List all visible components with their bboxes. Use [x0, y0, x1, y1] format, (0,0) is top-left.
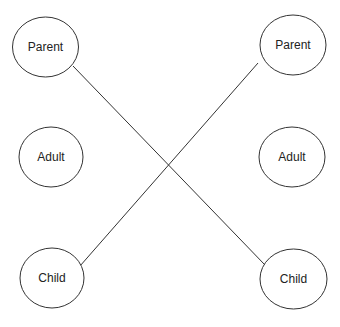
node-label: Child	[38, 271, 65, 285]
node-label: Adult	[278, 150, 306, 164]
node-label: Parent	[28, 40, 64, 54]
node-left-parent: Parent	[13, 17, 79, 77]
edge-left-parent-to-right-child	[73, 66, 265, 265]
nodes-group: Parent Adult Child Parent Adult Child	[13, 15, 328, 309]
node-label: Parent	[275, 38, 311, 52]
node-right-parent: Parent	[260, 15, 326, 75]
edge-left-child-to-right-parent	[80, 63, 258, 266]
node-right-child: Child	[260, 249, 327, 309]
node-label: Child	[280, 272, 307, 286]
diagram-svg: Parent Adult Child Parent Adult Child	[0, 0, 340, 327]
node-left-child: Child	[20, 248, 84, 308]
node-label: Adult	[37, 150, 65, 164]
edges-group	[73, 63, 265, 266]
node-right-adult: Adult	[259, 127, 325, 187]
node-left-adult: Adult	[19, 127, 83, 187]
diagram-canvas: Parent Adult Child Parent Adult Child	[0, 0, 340, 327]
